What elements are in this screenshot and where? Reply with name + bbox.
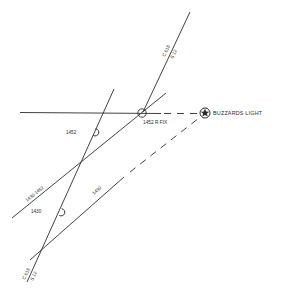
landmark-label: BUZZARDS LIGHT [213,110,263,116]
advanced-lop-1430-1452 [12,93,166,218]
dr-marker-1430 [59,209,66,217]
time-label-1430: 1430 [31,209,42,214]
bearing-line-1452 [20,113,161,114]
fix-label: 1452 R FIX [143,120,168,125]
lop-label-1430: 1430 [91,185,102,196]
speed-label-lower: S 12 [29,270,38,281]
lighthouse-star-icon [200,108,210,118]
navigation-diagram: BUZZARDS LIGHT 1452 R FIX C 018 S 12 C 0… [0,0,282,298]
bearing-line-1430 [30,177,124,260]
speed-label-upper: S 12 [169,48,178,59]
course-line-upper [143,12,190,112]
bearing-line-1430-dashed [130,118,199,172]
time-label-1452: 1452 [66,130,77,135]
